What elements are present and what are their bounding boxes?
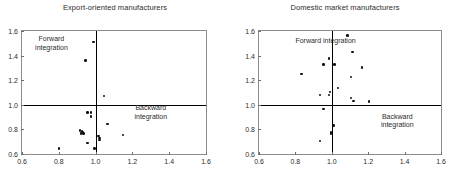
vertical-reference-line-right	[332, 31, 333, 154]
x-tick-label-right: 1.2	[363, 158, 373, 165]
y-tick-label-right: 0.8	[237, 126, 255, 133]
data-point	[122, 134, 125, 137]
plot-annotation-right: Backward integration	[381, 112, 414, 129]
data-point	[352, 100, 355, 103]
y-tick-label-right: 1.2	[237, 77, 255, 84]
data-point	[300, 73, 303, 76]
y-tick-right	[258, 129, 261, 130]
data-point	[346, 34, 349, 37]
y-tick-label-left: 0.8	[0, 126, 18, 133]
data-point	[350, 76, 353, 79]
chart-title-left: Export-oriented manufacturers	[0, 3, 230, 12]
y-tick-left	[21, 105, 24, 106]
data-point	[90, 115, 93, 118]
y-tick-left	[21, 129, 24, 130]
x-tick-left	[169, 152, 170, 155]
plot-area-left: 0.60.81.01.21.41.60.60.81.01.21.41.6Forw…	[21, 30, 207, 155]
data-point	[98, 139, 101, 142]
y-tick-right	[258, 80, 261, 81]
y-tick-label-left: 0.6	[0, 151, 18, 158]
x-tick-label-left: 1.4	[164, 158, 174, 165]
data-point	[351, 51, 354, 54]
y-tick-right	[258, 31, 261, 32]
x-tick-label-right: 1.0	[327, 158, 337, 165]
horizontal-reference-line-right	[259, 105, 441, 106]
x-tick-label-left: 0.8	[54, 158, 64, 165]
data-point	[328, 94, 331, 97]
plot-annotation-left: Forward integration	[35, 35, 68, 52]
x-tick-right	[405, 152, 406, 155]
x-tick-right	[295, 152, 296, 155]
figure-scatter-pair: Export-oriented manufacturers 0.60.81.01…	[0, 0, 460, 181]
data-point	[337, 87, 340, 90]
x-tick-label-left: 1.2	[128, 158, 138, 165]
y-tick-right	[258, 154, 261, 155]
x-tick-left	[206, 152, 207, 155]
data-point	[332, 124, 335, 127]
data-point	[319, 140, 322, 143]
data-point	[106, 123, 109, 126]
chart-title-right: Domestic market manufacturers	[230, 3, 460, 12]
x-tick-label-right: 1.6	[436, 158, 446, 165]
data-point	[333, 63, 336, 66]
x-tick-label-right: 0.6	[254, 158, 264, 165]
x-tick-left	[132, 152, 133, 155]
data-point	[58, 147, 61, 150]
data-point	[86, 111, 89, 114]
y-tick-right	[258, 105, 261, 106]
data-point	[319, 94, 322, 97]
data-point	[322, 63, 325, 66]
x-tick-right	[368, 152, 369, 155]
data-point	[322, 108, 325, 111]
data-point	[328, 57, 331, 60]
y-tick-label-left: 1.4	[0, 52, 18, 59]
data-point	[93, 147, 96, 150]
data-point	[90, 111, 93, 114]
y-tick-label-left: 1.6	[0, 28, 18, 35]
data-point	[103, 95, 106, 98]
x-tick-left	[59, 152, 60, 155]
x-tick-right	[332, 152, 333, 155]
plot-area-right: 0.60.81.01.21.41.60.60.81.01.21.41.6Forw…	[258, 30, 442, 155]
y-tick-right	[258, 56, 261, 57]
y-tick-label-left: 1.0	[0, 101, 18, 108]
plot-annotation-left: Backward integration	[123, 104, 178, 121]
x-tick-left	[96, 152, 97, 155]
y-tick-left	[21, 56, 24, 57]
y-tick-label-right: 1.4	[237, 52, 255, 59]
data-point	[330, 132, 333, 135]
x-tick-label-right: 1.4	[400, 158, 410, 165]
data-point	[368, 100, 371, 103]
panel-export-oriented: Export-oriented manufacturers 0.60.81.01…	[0, 0, 230, 181]
y-tick-left	[21, 80, 24, 81]
plot-annotation-right: Forward integration	[295, 37, 355, 46]
x-tick-label-left: 1.6	[201, 158, 211, 165]
x-tick-label-left: 1.0	[91, 158, 101, 165]
x-tick-right	[441, 152, 442, 155]
panel-domestic-market: Domestic market manufacturers 0.60.81.01…	[230, 0, 460, 181]
y-tick-label-left: 1.2	[0, 77, 18, 84]
x-tick-label-left: 0.6	[17, 158, 27, 165]
y-tick-label-right: 1.0	[237, 101, 255, 108]
data-point	[361, 66, 364, 69]
data-point	[350, 97, 353, 100]
y-tick-label-right: 0.6	[237, 151, 255, 158]
data-point	[82, 132, 85, 135]
data-point	[86, 142, 89, 145]
y-tick-label-right: 1.6	[237, 28, 255, 35]
data-point	[84, 59, 87, 62]
x-tick-label-right: 0.8	[291, 158, 301, 165]
y-tick-left	[21, 31, 24, 32]
y-tick-left	[21, 154, 24, 155]
